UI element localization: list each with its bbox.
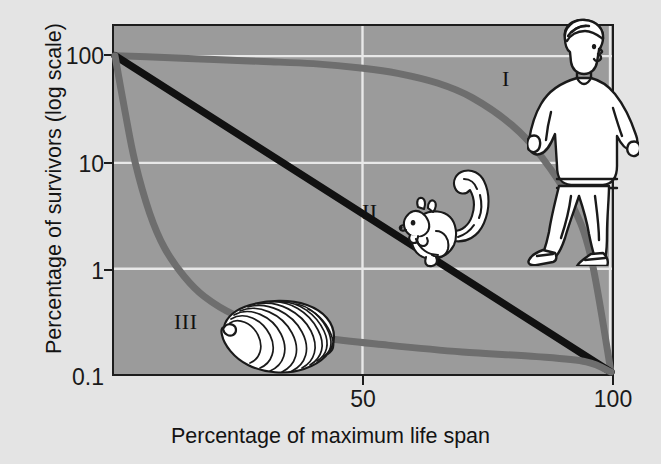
curve-label-ii: II [362, 199, 378, 225]
x-tick-label-50: 50 [350, 386, 376, 413]
curve-label-i: I [502, 66, 510, 92]
squirrel-icon [392, 169, 498, 269]
oyster-shell-illustration [212, 293, 340, 377]
curve-label-iii: III [174, 309, 197, 335]
jogging-human-illustration [527, 16, 639, 266]
x-axis-title: Percentage of maximum life span [0, 424, 661, 449]
plot-area: I II III [112, 24, 614, 376]
oyster-shell-icon [212, 293, 340, 377]
y-axis-title: Percentage of survivors (log scale) [42, 0, 67, 399]
x-tick-mark-50 [362, 376, 364, 385]
x-tick-mark-100 [612, 376, 614, 385]
survivorship-curve-figure: 100 10 1 0.1 50 100 Percentage of surviv… [0, 0, 661, 464]
x-tick-label-100: 100 [594, 386, 632, 413]
human-figure-icon [527, 16, 639, 266]
squirrel-illustration [392, 169, 498, 269]
